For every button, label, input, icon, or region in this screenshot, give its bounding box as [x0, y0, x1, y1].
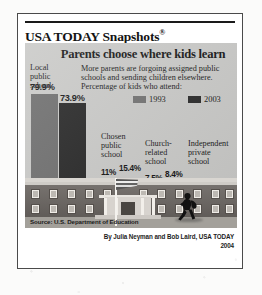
window-icon [67, 204, 76, 214]
window-icon [211, 189, 220, 199]
masthead-brand: USA TODAY Snapshots [25, 29, 159, 44]
window-icon [49, 204, 58, 214]
masthead-title: USA TODAY Snapshots® [25, 25, 237, 45]
window-icon [49, 189, 58, 199]
window-icon [31, 204, 40, 214]
window-icon [225, 204, 234, 214]
column-icon [141, 198, 144, 215]
masthead: USA TODAY Snapshots® [25, 25, 237, 41]
source-note: Source: U.S. Department of Education [30, 218, 138, 225]
registered-mark-icon: ® [159, 28, 165, 37]
window-icon [225, 189, 234, 199]
window-icon [31, 189, 40, 199]
window-icon [211, 204, 220, 214]
credit-year: 2004 [64, 241, 234, 250]
window-icon [85, 189, 94, 199]
column-icon [152, 198, 155, 215]
credit-byline: By Julia Neyman and Bob Laird, USA TODAY [64, 232, 234, 241]
infographic-frame: USA TODAY Snapshots® Parents choose wher… [17, 13, 243, 269]
school-illustration: Source: U.S. Department of Education [25, 178, 237, 228]
value-label-chosen-2003: 15.4% [119, 164, 141, 173]
window-icon [67, 189, 76, 199]
value-label-chosen-1993: 11% [101, 168, 116, 177]
window-icon [85, 204, 94, 214]
column-icon [104, 198, 107, 215]
value-label-local-2003: 73.9% [60, 93, 85, 103]
window-icon [157, 204, 166, 214]
running-child-icon [177, 192, 199, 222]
snapshot-page: USA TODAY Snapshots® Parents choose wher… [0, 0, 262, 295]
window-icon [157, 189, 166, 199]
value-label-local-1993: 79.9% [30, 82, 55, 92]
masthead-rule [25, 21, 235, 23]
credit-block: By Julia Neyman and Bob Laird, USA TODAY… [64, 232, 234, 250]
